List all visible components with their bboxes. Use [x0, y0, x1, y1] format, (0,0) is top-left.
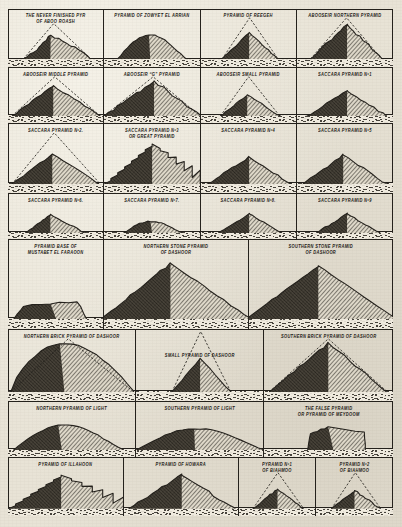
panel-caption: PYRAMID OF REEGEH: [201, 12, 296, 19]
caption-line: ABOOSEIR NORTHERN PYRAMID: [297, 12, 393, 19]
ground-hatching: [201, 58, 296, 67]
caption-line: SMALL PYRAMID OF DASHOOR: [136, 352, 263, 359]
caption-line: SACCARA PYRAMID Nº1: [297, 71, 393, 78]
caption-line: SOUTHERN PYRAMID OF LIGHT: [136, 405, 263, 412]
pyramid-shadow-face: [136, 429, 195, 450]
pyramid-panel-pyramid-saccara-5[interactable]: SACCARA PYRAMID Nº5: [297, 124, 393, 193]
pyramid-row: NORTHERN PYRAMID OF LIGHTSOUTHERN PYRAMI…: [8, 401, 393, 457]
pyramid-panel-pyramid-zowyet-el-arrian[interactable]: PYRAMID OF ZOWYET EL ARRIAN: [104, 9, 200, 67]
pyramid-row: SACCARA PYRAMID Nº2.SACCARA PYRAMID Nº3O…: [8, 123, 393, 193]
caption-line: PYRAMID OF ILLAHOON: [8, 461, 123, 468]
pyramid-panel-pyramid-abooseir-northern[interactable]: ABOOSEIR NORTHERN PYRAMID: [297, 9, 393, 67]
panel-caption: PYRAMID BASE OFMUSTABET EL FARAOON: [8, 243, 103, 256]
pyramid-shadow-face: [13, 425, 62, 450]
caption-line: PYRAMID OF HOWARA: [124, 461, 239, 468]
panel-caption: SACCARA PYRAMID Nº1: [297, 71, 393, 78]
pyramid-panel-pyramid-northern-stone-dashoor[interactable]: NORTHERN STONE PYRAMIDOF DASHOOR: [104, 240, 248, 329]
pyramid-panel-pyramid-small-dashoor[interactable]: SMALL PYRAMID OF DASHOOR: [136, 330, 264, 401]
pyramid-figure: [136, 330, 264, 392]
panel-caption: ABOOSEIR MIDDLE PYRAMID: [8, 71, 103, 78]
pyramid-row: ABOOSEIR MIDDLE PYRAMIDABOOSEIR “G” PYRA…: [8, 67, 393, 123]
pyramid-panel-pyramid-abu-roash[interactable]: THE NEVER FINISHED PYROF ABOO ROASH: [8, 9, 104, 67]
caption-line: PYRAMID OF REEGEH: [201, 12, 296, 19]
pyramid-panel-pyramid-saccara-7[interactable]: SACCARA PYRAMID Nº7.: [104, 194, 200, 239]
panel-caption: SACCARA PYRAMID Nº9: [297, 197, 393, 204]
panel-caption: SACCARA PYRAMID Nº2.: [8, 127, 103, 134]
caption-line: SACCARA PYRAMID Nº8.: [201, 197, 296, 204]
caption-line: NORTHERN BRICK PYRAMID OF DASHOOR: [8, 333, 135, 340]
pyramid-panel-pyramid-abooseir-middle[interactable]: ABOOSEIR MIDDLE PYRAMID: [8, 68, 104, 123]
panel-caption: PYRAMID OF ZOWYET EL ARRIAN: [104, 12, 199, 19]
caption-line: ABOOSEIR “G” PYRAMID: [104, 71, 199, 78]
pyramid-row: THE NEVER FINISHED PYROF ABOO ROASHPYRAM…: [8, 9, 393, 67]
pyramid-row: SACCARA PYRAMID Nº6.SACCARA PYRAMID Nº7.…: [8, 193, 393, 239]
panel-caption: PYRAMID Nº1OF BIAHMOO: [239, 461, 315, 474]
pyramid-panel-pyramid-northern-brick-dashoor[interactable]: NORTHERN BRICK PYRAMID OF DASHOOR: [8, 330, 136, 401]
panel-caption: NORTHERN BRICK PYRAMID OF DASHOOR: [8, 333, 135, 340]
ground-hatching: [104, 58, 199, 67]
pyramid-panel-pyramid-false-meydoom[interactable]: THE FALSE PYRAMIDOR PYRAMID OF MEYDOOM: [264, 402, 393, 457]
pyramid-panel-pyramid-southern-of-light[interactable]: SOUTHERN PYRAMID OF LIGHT: [136, 402, 264, 457]
pyramid-panel-pyramid-abooseir-g[interactable]: ABOOSEIR “G” PYRAMID: [104, 68, 200, 123]
pyramid-panel-pyramid-saccara-6[interactable]: SACCARA PYRAMID Nº6.: [8, 194, 104, 239]
pyramid-panel-pyramid-of-reegeh[interactable]: PYRAMID OF REEGEH: [201, 9, 297, 67]
pyramid-panel-pyramid-saccara-8[interactable]: SACCARA PYRAMID Nº8.: [201, 194, 297, 239]
pyramid-panel-pyramid-of-howara[interactable]: PYRAMID OF HOWARA: [124, 458, 240, 516]
caption-line: OF BIAHMOO: [239, 467, 315, 473]
pyramid-panel-pyramid-biahmoo-2[interactable]: PYRAMID Nº2OF BIAHMOO: [316, 458, 393, 516]
pyramid-panel-pyramid-biahmoo-1[interactable]: PYRAMID Nº1OF BIAHMOO: [239, 458, 316, 516]
pyramid-panel-pyramid-northern-of-light[interactable]: NORTHERN PYRAMID OF LIGHT: [8, 402, 136, 457]
pyramid-row: NORTHERN BRICK PYRAMID OF DASHOORSMALL P…: [8, 329, 393, 401]
caption-line: OF DASHOOR: [104, 249, 247, 255]
panel-caption: THE FALSE PYRAMIDOR PYRAMID OF MEYDOOM: [264, 405, 393, 418]
ground-hatching: [297, 58, 393, 67]
pyramid-panel-pyramid-southern-brick-dashoor[interactable]: SOUTHERN BRICK PYRAMID OF DASHOOR: [264, 330, 393, 401]
pyramid-panel-pyramid-of-illahoon[interactable]: PYRAMID OF ILLAHOON: [8, 458, 124, 516]
caption-line: SACCARA PYRAMID Nº5: [297, 127, 393, 134]
plate-paper: THE NEVER FINISHED PYROF ABOO ROASHPYRAM…: [0, 0, 402, 527]
panel-caption: PYRAMID Nº2OF BIAHMOO: [316, 461, 393, 474]
pyramid-shadow-face: [118, 35, 151, 59]
panel-caption: ABOOSEIR NORTHERN PYRAMID: [297, 12, 393, 19]
caption-line: MUSTABET EL FARAOON: [8, 249, 103, 255]
panel-caption: SOUTHERN STONE PYRAMIDOF DASHOOR: [249, 243, 393, 256]
pyramid-panel-pyramid-saccara-4[interactable]: SACCARA PYRAMID Nº4: [201, 124, 297, 193]
pyramid-shadow-face: [11, 344, 65, 392]
panel-caption: SACCARA PYRAMID Nº5: [297, 127, 393, 134]
caption-line: ABOOSEIR SMALL PYRAMID: [201, 71, 296, 78]
caption-line: SACCARA PYRAMID Nº2.: [8, 127, 103, 134]
caption-line: OR PYRAMID OF MEYDOOM: [264, 411, 393, 417]
pyramid-row: PYRAMID OF ILLAHOONPYRAMID OF HOWARAPYRA…: [8, 457, 393, 516]
caption-line: SACCARA PYRAMID Nº4: [201, 127, 296, 134]
caption-line: SOUTHERN BRICK PYRAMID OF DASHOOR: [264, 333, 393, 340]
caption-line: OF BIAHMOO: [316, 467, 393, 473]
pyramid-panel-pyramid-saccara-9[interactable]: SACCARA PYRAMID Nº9: [297, 194, 393, 239]
caption-line: SACCARA PYRAMID Nº7.: [104, 197, 199, 204]
panel-caption: SMALL PYRAMID OF DASHOOR: [136, 352, 263, 359]
caption-line: NORTHERN PYRAMID OF LIGHT: [8, 405, 135, 412]
panel-caption: SOUTHERN BRICK PYRAMID OF DASHOOR: [264, 333, 393, 340]
pyramid-panel-pyramid-saccara-2[interactable]: SACCARA PYRAMID Nº2.: [8, 124, 104, 193]
pyramid-panel-pyramid-saccara-3-great[interactable]: SACCARA PYRAMID Nº3OR GREAT PYRAMID: [104, 124, 200, 193]
panel-caption: PYRAMID OF ILLAHOON: [8, 461, 123, 468]
caption-line: SACCARA PYRAMID Nº6.: [8, 197, 103, 204]
caption-line: PYRAMID OF ZOWYET EL ARRIAN: [104, 12, 199, 19]
caption-line: OF ABOO ROASH: [8, 18, 103, 24]
panel-caption: THE NEVER FINISHED PYROF ABOO ROASH: [8, 12, 103, 25]
panel-caption: SACCARA PYRAMID Nº7.: [104, 197, 199, 204]
caption-line: SACCARA PYRAMID Nº9: [297, 197, 393, 204]
pyramid-panel-pyramid-saccara-1[interactable]: SACCARA PYRAMID Nº1: [297, 68, 393, 123]
panel-caption: SACCARA PYRAMID Nº8.: [201, 197, 296, 204]
ground-hatching: [8, 58, 103, 67]
caption-line: OR GREAT PYRAMID: [104, 133, 199, 139]
pyramid-panel-pyramid-southern-stone-dashoor[interactable]: SOUTHERN STONE PYRAMIDOF DASHOOR: [249, 240, 393, 329]
panel-caption: NORTHERN PYRAMID OF LIGHT: [8, 405, 135, 412]
panel-caption: NORTHERN STONE PYRAMIDOF DASHOOR: [104, 243, 247, 256]
pyramid-panel-pyramid-base-mustabet-el-faraoon[interactable]: PYRAMID BASE OFMUSTABET EL FARAOON: [8, 240, 104, 329]
panel-caption: SOUTHERN PYRAMID OF LIGHT: [136, 405, 263, 412]
pyramid-row: PYRAMID BASE OFMUSTABET EL FARAOONNORTHE…: [8, 239, 393, 329]
panel-caption: ABOOSEIR SMALL PYRAMID: [201, 71, 296, 78]
panel-caption: SACCARA PYRAMID Nº4: [201, 127, 296, 134]
panel-caption: ABOOSEIR “G” PYRAMID: [104, 71, 199, 78]
pyramid-panel-pyramid-abooseir-small[interactable]: ABOOSEIR SMALL PYRAMID: [201, 68, 297, 123]
